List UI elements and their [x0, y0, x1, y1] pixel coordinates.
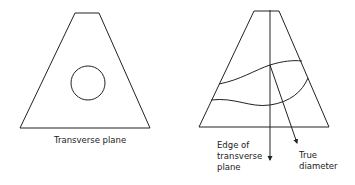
diameter-label-line1: True [299, 150, 317, 161]
left-figure [20, 13, 150, 128]
left-trapezoid [20, 13, 150, 128]
edge-label-line2: transverse [217, 151, 262, 162]
edge-label-line1: Edge of [217, 140, 249, 151]
transverse-circle [71, 66, 105, 100]
right-trapezoid [199, 11, 329, 127]
upper-curve [219, 61, 302, 84]
right-figure [199, 10, 329, 160]
edge-label-line3: plane [217, 162, 241, 173]
diameter-label-line2: diameter [299, 161, 338, 172]
transverse-plane-label: Transverse plane [54, 135, 126, 146]
